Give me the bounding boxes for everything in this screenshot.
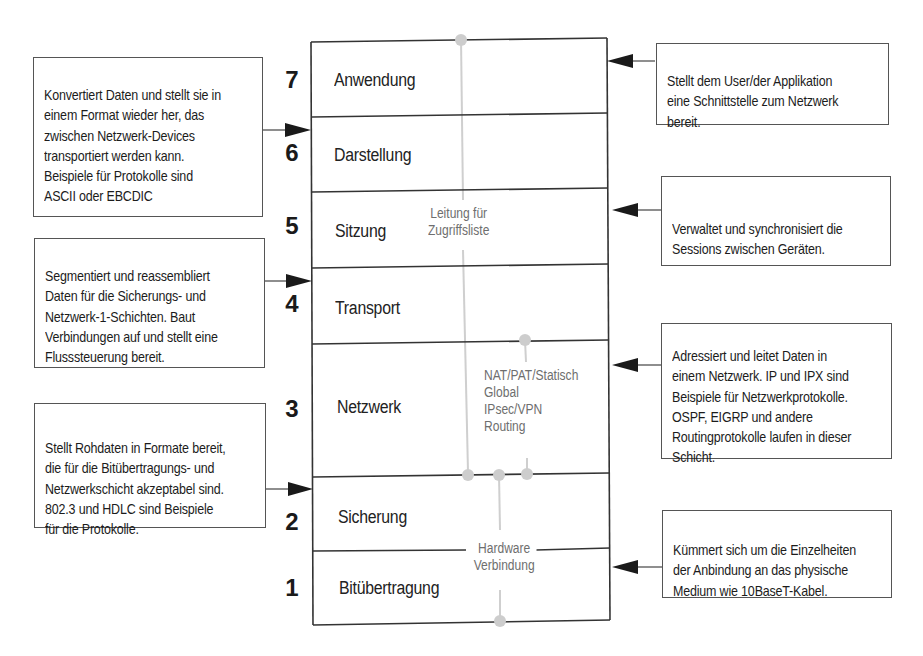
description-box-layer-3: Adressiert und leitet Daten in einem Net…	[661, 323, 892, 459]
hardware-line-top	[499, 474, 500, 530]
arrow-left-icon	[612, 203, 638, 217]
layer-number-6: 6	[282, 139, 302, 167]
description-box-layer-6: Konvertiert Daten und stellt sie in eine…	[33, 57, 263, 217]
layer-number-1: 1	[282, 574, 302, 602]
description-box-layer-4: Segmentiert und reassembliert Daten für …	[34, 238, 265, 368]
network-features-label: NAT/PAT/Statisch Global IPsec/VPN Routin…	[484, 367, 578, 435]
connector-dot	[519, 334, 531, 346]
connector-dot	[494, 615, 506, 627]
layer-name-bituebertragung: Bitübertragung	[339, 578, 439, 599]
access-list-line-bottom	[463, 250, 468, 472]
layer-name-sitzung: Sitzung	[335, 221, 386, 242]
layer-number-5: 5	[282, 212, 302, 240]
arrow-right-icon	[285, 123, 311, 137]
arrow-left-icon	[612, 560, 638, 574]
description-box-layer-1: Kümmert sich um die Einzelheiten der Anb…	[662, 510, 892, 598]
connector-dot	[521, 468, 533, 480]
access-list-line-top	[461, 38, 463, 200]
arrow-left-icon	[612, 358, 638, 372]
connector-dot	[493, 469, 505, 481]
layer-name-sicherung: Sicherung	[338, 507, 407, 528]
arrow-right-icon	[286, 274, 312, 288]
layer-number-2: 2	[282, 508, 302, 536]
layer-name-netzwerk: Netzwerk	[337, 397, 401, 418]
arrow-left-icon	[607, 54, 633, 68]
connector-dot	[455, 34, 467, 46]
layer-name-darstellung: Darstellung	[334, 145, 411, 166]
access-list-label: Leitung für Zugriffsliste	[428, 205, 489, 239]
description-box-layer-2: Stellt Rohdaten in Formate bereit, die f…	[34, 403, 266, 528]
layer-name-transport: Transport	[335, 298, 400, 319]
description-box-layer-5: Verwaltet und synchronisiert die Session…	[661, 176, 891, 266]
arrow-right-icon	[288, 482, 313, 496]
hardware-connection-label: Hardware Verbindung	[472, 540, 536, 574]
layer-number-4: 4	[282, 290, 302, 318]
layer-number-3: 3	[282, 395, 302, 423]
layer-name-anwendung: Anwendung	[334, 70, 415, 91]
description-box-layer-7: Stellt dem User/der Applikation eine Sch…	[656, 43, 889, 125]
layer-number-7: 7	[282, 66, 302, 94]
connector-dot	[462, 469, 474, 481]
